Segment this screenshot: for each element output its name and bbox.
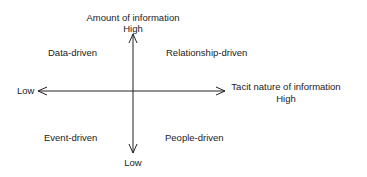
y-axis-title: Amount of information (83, 12, 183, 23)
y-axis-high-label: High (83, 23, 183, 34)
x-axis-title: Tacit nature of information (226, 81, 346, 92)
y-axis-low-label: Low (113, 157, 153, 168)
quadrant-top-left-label: Data-driven (48, 47, 97, 58)
x-axis-low-label: Low (17, 85, 34, 96)
quadrant-bottom-right-label: People-driven (165, 132, 224, 143)
quadrant-bottom-left-label: Event-driven (44, 132, 97, 143)
quadrant-top-right-label: Relationship-driven (166, 47, 247, 58)
x-axis-high-label: High (226, 93, 346, 104)
